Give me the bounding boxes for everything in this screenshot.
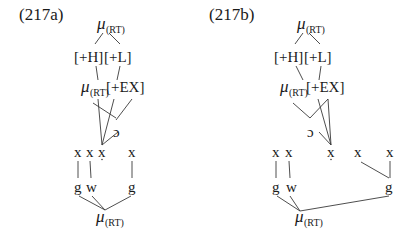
feature-h: [+H]	[74, 49, 103, 65]
autosegmental-diagram-figure: (217a) μ (RT) [+H] [+L] μ (RT) [+EX] ɔ x…	[0, 0, 411, 236]
segment-g: g	[74, 179, 82, 195]
x-slot-dotted: x	[327, 144, 335, 160]
x-slot: x	[74, 144, 82, 160]
hook-symbol: ɔ	[113, 124, 120, 140]
feature-ex: [+EX]	[306, 79, 344, 95]
segment-w: w	[86, 179, 97, 195]
row2-mu-node: μ (RT)	[80, 77, 109, 99]
x-slot: x	[86, 144, 94, 160]
underdot-mark	[101, 159, 102, 160]
svg-text:μ: μ	[296, 14, 306, 33]
x-slot: x	[272, 144, 280, 160]
svg-text:μ: μ	[279, 77, 289, 96]
feature-l: [+L]	[104, 49, 132, 65]
x-slot: x	[285, 144, 293, 160]
svg-text:(RT): (RT)	[106, 24, 125, 36]
panel-217a: (217a) μ (RT) [+H] [+L] μ (RT) [+EX] ɔ x…	[19, 5, 144, 229]
segment-w: w	[286, 179, 297, 195]
segment-g: g	[128, 179, 136, 195]
feature-h: [+H]	[274, 49, 303, 65]
row2-mu-node: μ (RT)	[279, 77, 308, 99]
top-mu-node: μ (RT)	[296, 14, 325, 36]
panel-label: (217a)	[19, 5, 63, 24]
segment-g: g	[272, 179, 280, 195]
segment-g: g	[385, 179, 393, 195]
hook-symbol: ɔ	[307, 124, 314, 140]
x-slot: x	[386, 144, 394, 160]
panel-217b: (217b) μ (RT) [+H] [+L] μ (RT) [+EX] ɔ x…	[209, 5, 394, 229]
svg-text:(RT): (RT)	[306, 24, 325, 36]
x-slot: x	[354, 144, 362, 160]
svg-text:(RT): (RT)	[304, 217, 323, 229]
top-mu-node: μ (RT)	[96, 14, 125, 36]
x-slot-dotted: x	[98, 144, 106, 160]
feature-ex: [+EX]	[106, 79, 144, 95]
svg-text:μ: μ	[96, 14, 106, 33]
svg-text:μ: μ	[95, 207, 105, 226]
svg-text:μ: μ	[80, 77, 90, 96]
panel-label: (217b)	[209, 5, 254, 24]
bottom-mu-node: μ (RT)	[95, 207, 124, 229]
x-slot: x	[128, 144, 136, 160]
svg-text:(RT): (RT)	[105, 217, 124, 229]
underdot-mark	[330, 159, 331, 160]
feature-l: [+L]	[304, 49, 332, 65]
